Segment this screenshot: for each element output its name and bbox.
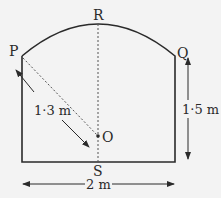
height-label: 1·5 m bbox=[182, 102, 219, 117]
radius-label: 1·3 m bbox=[34, 103, 71, 118]
width-label: 2 m bbox=[86, 177, 111, 192]
radius-arrow-lower bbox=[62, 120, 89, 147]
center-point-o bbox=[96, 134, 100, 138]
label-o: O bbox=[102, 129, 113, 145]
label-r: R bbox=[93, 7, 104, 23]
diagram-canvas: R P Q O S 1·3 m 1·5 m 2 m bbox=[0, 0, 221, 198]
label-p: P bbox=[9, 43, 18, 59]
radius-arrow-upper bbox=[16, 70, 34, 92]
window-frame-diagram: R P Q O S 1·3 m 1·5 m 2 m bbox=[0, 0, 221, 198]
dashed-line-po bbox=[23, 58, 98, 136]
label-q: Q bbox=[177, 45, 188, 61]
